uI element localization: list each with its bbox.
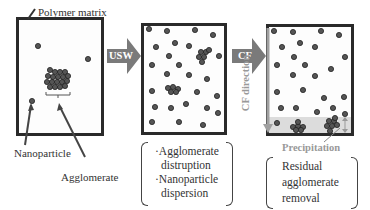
note-dispersion: dispersion [161, 186, 208, 200]
panel2-small-agglomerate-1 [196, 47, 211, 64]
nanoparticle-label: Nanoparticle [14, 147, 71, 159]
left-bracket [266, 157, 273, 209]
left-bracket [141, 142, 148, 206]
note-nanoparticle: ·Nanoparticle [155, 172, 218, 186]
note-removal: removal [282, 191, 320, 205]
polymer-matrix-label: Polymer matrix [38, 6, 107, 18]
note-disruption: distruption [161, 158, 211, 172]
note-agglomerate: agglomerate [282, 175, 339, 189]
agglomerate-label: Agglomerate [61, 171, 118, 183]
precipitation-label: Precipitation [282, 142, 340, 154]
usw-effect-notes: ·Agglomerate distruption ·Nanoparticle d… [141, 142, 233, 206]
agglomerate-cluster [44, 67, 70, 89]
right-bracket [226, 142, 233, 206]
panel2-small-agglomerate-2 [165, 84, 180, 94]
cf-direction-label: CF direction [240, 55, 252, 111]
note-agglomerate: ·Agglomerate [155, 144, 219, 158]
cf-effect-notes: Residual agglomerate removal [266, 157, 358, 209]
usw-arrow-label: USW [109, 50, 133, 62]
panel3-particles [271, 28, 347, 125]
right-bracket [351, 157, 358, 209]
note-residual: Residual [282, 159, 322, 173]
panel2-particles [146, 26, 221, 127]
